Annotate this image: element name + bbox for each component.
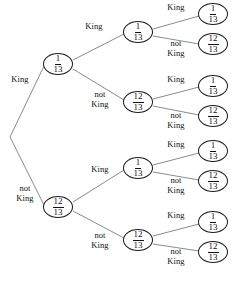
node-l3-2: 1213 [198, 33, 228, 55]
edge-l2a-1 [153, 16, 199, 29]
probability-fraction: 1213 [133, 92, 144, 112]
fraction-numerator: 1 [210, 212, 217, 223]
node-l2-d: 1213 [123, 229, 153, 251]
edge-l1king-a [73, 34, 124, 60]
node-l2-a: 113 [123, 21, 153, 43]
probability-fraction: 113 [209, 76, 218, 96]
fraction-denominator: 13 [209, 15, 218, 25]
fraction-denominator: 13 [134, 169, 143, 179]
fraction-denominator: 13 [209, 253, 218, 263]
fraction-numerator: 12 [133, 92, 144, 103]
probability-fraction: 1213 [208, 242, 219, 262]
probability-fraction: 113 [54, 54, 63, 74]
node-l3-3: 113 [198, 75, 228, 97]
edge-label-l3b-notking: not King [167, 111, 184, 130]
edge-l2d-7 [153, 224, 199, 236]
fraction-denominator: 13 [134, 33, 143, 43]
node-l2-c: 113 [123, 157, 153, 179]
fraction-denominator: 13 [209, 87, 218, 97]
node-l2-b: 1213 [123, 91, 153, 113]
probability-fraction: 1213 [208, 34, 219, 54]
fraction-numerator: 1 [210, 4, 217, 15]
node-l3-1: 113 [198, 3, 228, 25]
fraction-numerator: 1 [135, 158, 142, 169]
edge-l2b-3 [153, 87, 199, 99]
edge-label-l3a-king: King [167, 3, 184, 13]
edge-label-l3d-king: King [167, 211, 184, 221]
fraction-denominator: 13 [134, 103, 143, 113]
fraction-denominator: 13 [209, 182, 218, 192]
fraction-numerator: 12 [208, 171, 219, 182]
fraction-denominator: 13 [54, 65, 63, 75]
node-l3-4: 1213 [198, 105, 228, 127]
node-l1-king: 113 [43, 53, 73, 75]
fraction-numerator: 1 [210, 141, 217, 152]
edge-label-l3c-notking: not King [167, 176, 184, 195]
probability-tree-diagram: 1131213113121311312131131213113121311312… [0, 0, 236, 285]
fraction-denominator: 13 [209, 152, 218, 162]
edge-label-l2b-king: King [91, 165, 108, 175]
probability-fraction: 1213 [53, 197, 64, 217]
fraction-numerator: 12 [133, 230, 144, 241]
node-l3-8: 1213 [198, 241, 228, 263]
fraction-numerator: 12 [208, 242, 219, 253]
edge-label-l1-king: King [11, 75, 28, 85]
fraction-denominator: 13 [209, 117, 218, 127]
probability-fraction: 1213 [208, 171, 219, 191]
edge-label-l3c-king: King [167, 140, 184, 150]
probability-fraction: 113 [134, 158, 143, 178]
fraction-denominator: 13 [209, 223, 218, 233]
fraction-numerator: 1 [55, 54, 62, 65]
edge-l2c-5 [153, 153, 199, 165]
edge-label-l2b-notking: not King [91, 231, 108, 250]
probability-fraction: 1213 [208, 106, 219, 126]
edge-label-l2a-notking: not King [91, 90, 108, 109]
probability-fraction: 113 [134, 22, 143, 42]
probability-fraction: 113 [209, 212, 218, 232]
edge-label-l1-notking: not King [16, 184, 33, 203]
edge-l1notking-c [73, 170, 124, 202]
edge-label-l3b-king: King [167, 75, 184, 85]
edge-label-l3a-notking: not King [167, 39, 184, 58]
fraction-numerator: 12 [208, 34, 219, 45]
fraction-numerator: 12 [208, 106, 219, 117]
probability-fraction: 113 [209, 141, 218, 161]
fraction-denominator: 13 [54, 208, 63, 218]
probability-fraction: 1213 [133, 230, 144, 250]
edge-label-l2a-king: King [85, 22, 102, 32]
node-l3-5: 113 [198, 140, 228, 162]
node-l3-6: 1213 [198, 170, 228, 192]
fraction-denominator: 13 [134, 241, 143, 251]
node-l1-notking: 1213 [43, 196, 73, 218]
probability-fraction: 113 [209, 4, 218, 24]
fraction-numerator: 12 [53, 197, 64, 208]
fraction-denominator: 13 [209, 45, 218, 55]
fraction-numerator: 1 [135, 22, 142, 33]
edge-label-l3d-notking: not King [167, 247, 184, 266]
node-l3-7: 113 [198, 211, 228, 233]
fraction-numerator: 1 [210, 76, 217, 87]
